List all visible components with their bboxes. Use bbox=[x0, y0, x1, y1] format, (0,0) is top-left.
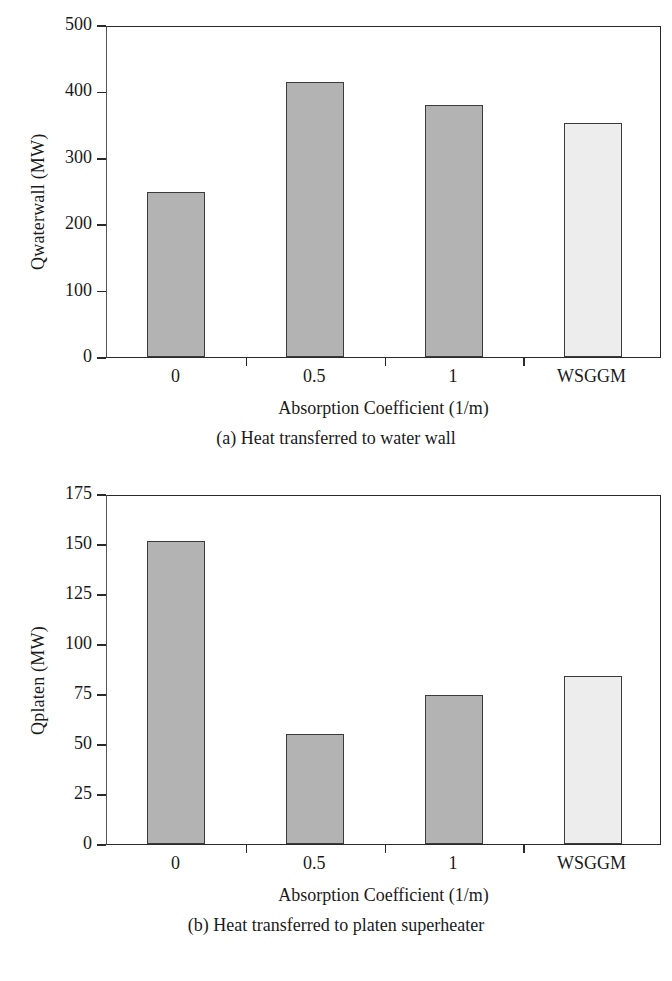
chart-panel-a: Qwaterwall (MW) 0100200300400500 00.51WS… bbox=[0, 0, 672, 480]
y-tick-label: 0 bbox=[83, 346, 92, 367]
x-tick-label-1: 1 bbox=[448, 366, 457, 387]
x-tick-mark bbox=[246, 844, 248, 853]
y-tick-label: 0 bbox=[83, 833, 92, 854]
y-tick-label: 175 bbox=[65, 483, 92, 504]
bar-0.5 bbox=[286, 734, 344, 844]
y-tick-label: 25 bbox=[74, 783, 92, 804]
x-tick-mark bbox=[385, 357, 387, 366]
x-tick-label-0: 0 bbox=[171, 853, 180, 874]
x-axis-title-b: Absorption Coefficient (1/m) bbox=[106, 885, 661, 906]
y-axis-ticks-a: 0100200300400500 bbox=[0, 26, 106, 358]
y-tick-label: 400 bbox=[65, 80, 92, 101]
y-tick-label: 50 bbox=[74, 733, 92, 754]
y-tick-label: 100 bbox=[65, 280, 92, 301]
y-tick-mark bbox=[97, 92, 106, 94]
bar-WSGGM bbox=[564, 676, 622, 844]
x-tick-label-WSGGM: WSGGM bbox=[557, 366, 626, 387]
y-tick-label: 75 bbox=[74, 683, 92, 704]
x-tick-mark bbox=[385, 844, 387, 853]
x-tick-labels-b: 00.51WSGGM bbox=[106, 853, 661, 879]
y-tick-label: 125 bbox=[65, 583, 92, 604]
y-tick-mark bbox=[97, 291, 106, 293]
y-tick-label: 300 bbox=[65, 147, 92, 168]
x-tick-label-1: 1 bbox=[448, 853, 457, 874]
x-tick-mark bbox=[246, 357, 248, 366]
chart-panel-b: Qplaten (MW) 0255075100125150175 00.51WS… bbox=[0, 480, 672, 981]
x-tick-label-0.5: 0.5 bbox=[303, 366, 326, 387]
y-tick-mark bbox=[97, 744, 106, 746]
y-axis-ticks-b: 0255075100125150175 bbox=[0, 495, 106, 845]
y-tick-mark bbox=[97, 158, 106, 160]
y-tick-label: 100 bbox=[65, 633, 92, 654]
bar-WSGGM bbox=[564, 123, 622, 357]
bar-0 bbox=[147, 192, 205, 357]
y-tick-mark bbox=[97, 544, 106, 546]
bar-1 bbox=[425, 105, 483, 357]
panel-caption-b: (b) Heat transferred to platen superheat… bbox=[0, 915, 672, 936]
y-tick-mark bbox=[97, 694, 106, 696]
y-tick-mark bbox=[97, 494, 106, 496]
y-tick-label: 500 bbox=[65, 14, 92, 35]
bar-0.5 bbox=[286, 82, 344, 357]
x-tick-label-0.5: 0.5 bbox=[303, 853, 326, 874]
y-tick-mark bbox=[97, 224, 106, 226]
y-tick-mark bbox=[97, 844, 106, 846]
panel-caption-a: (a) Heat transferred to water wall bbox=[0, 428, 672, 449]
x-tick-mark bbox=[523, 357, 525, 366]
y-tick-mark bbox=[97, 594, 106, 596]
x-tick-labels-a: 00.51WSGGM bbox=[106, 366, 661, 392]
bar-0 bbox=[147, 541, 205, 844]
y-tick-mark bbox=[97, 794, 106, 796]
bar-1 bbox=[425, 695, 483, 844]
x-axis-title-a: Absorption Coefficient (1/m) bbox=[106, 398, 661, 419]
plot-area-a bbox=[106, 26, 661, 358]
y-tick-mark bbox=[97, 644, 106, 646]
plot-area-b bbox=[106, 495, 661, 845]
x-tick-mark bbox=[523, 844, 525, 853]
x-tick-label-0: 0 bbox=[171, 366, 180, 387]
y-tick-mark bbox=[97, 357, 106, 359]
x-tick-label-WSGGM: WSGGM bbox=[557, 853, 626, 874]
figure-page: Qwaterwall (MW) 0100200300400500 00.51WS… bbox=[0, 0, 672, 981]
y-tick-label: 200 bbox=[65, 213, 92, 234]
y-tick-mark bbox=[97, 25, 106, 27]
y-tick-label: 150 bbox=[65, 533, 92, 554]
